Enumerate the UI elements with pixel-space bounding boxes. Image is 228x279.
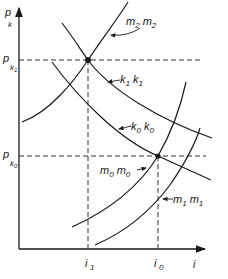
svg-text:m0 m0: m0 m0 xyxy=(100,164,131,179)
curve-m0 xyxy=(72,82,186,227)
label-m1: m1 m1 xyxy=(163,193,203,208)
diagram: p k i p k1 p k0 i 1 i 0 m2 m2 k1 k1 k0 k… xyxy=(0,0,228,279)
label-k0: k0 k0 xyxy=(119,120,155,135)
y-axis-label-sub: k xyxy=(8,20,13,29)
equilibrium-point-0 xyxy=(155,153,160,158)
y-tick-pk1-sub: k1 xyxy=(10,63,17,73)
x-tick-i1: i xyxy=(85,257,88,269)
label-m0: m0 m0 xyxy=(100,164,146,179)
svg-text:k0 k0: k0 k0 xyxy=(131,120,155,135)
curve-m2 xyxy=(22,2,128,122)
equilibrium-point-1 xyxy=(85,57,91,63)
y-tick-pk0: p xyxy=(2,148,9,160)
curve-m1 xyxy=(95,128,200,245)
y-axis-label: p xyxy=(4,6,11,18)
x-tick-i0-sub: 0 xyxy=(159,263,164,272)
svg-text:k1 k1: k1 k1 xyxy=(120,73,143,88)
y-tick-pk0-sub: k0 xyxy=(10,159,18,169)
y-tick-pk1: p xyxy=(2,52,9,64)
x-tick-i0: i xyxy=(154,257,157,269)
svg-text:m2 m2: m2 m2 xyxy=(126,15,157,30)
x-axis-label: i xyxy=(193,258,196,270)
x-tick-i1-sub: 1 xyxy=(90,263,94,272)
svg-text:m1 m1: m1 m1 xyxy=(173,193,203,208)
